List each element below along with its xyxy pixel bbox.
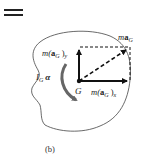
ma-y-label: m(aG )y bbox=[42, 48, 68, 59]
g-label: G bbox=[75, 86, 82, 96]
equals-sign bbox=[4, 9, 23, 16]
kinetic-diagram: m(aG )y maG IGα G m(aG )x (b) bbox=[0, 0, 148, 158]
figure-caption: (b) bbox=[45, 144, 55, 154]
ma-g-arrow bbox=[79, 50, 126, 81]
ma-g-label: maG bbox=[118, 32, 133, 43]
moment-label: IGα bbox=[35, 72, 51, 83]
moment-arrow bbox=[62, 64, 76, 100]
center-of-mass-point bbox=[77, 79, 81, 83]
ma-x-label: m(aG )x bbox=[91, 87, 117, 98]
